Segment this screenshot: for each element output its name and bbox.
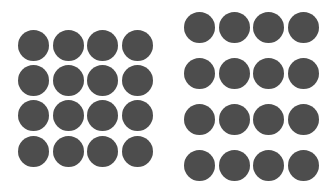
circle-dot bbox=[253, 150, 284, 181]
circle-dot bbox=[122, 30, 153, 61]
circle-dot bbox=[122, 136, 153, 167]
circle-dot bbox=[253, 58, 284, 89]
circle-dot bbox=[184, 104, 215, 135]
circle-dot bbox=[18, 136, 49, 167]
circle-dot bbox=[288, 58, 319, 89]
circle-dot bbox=[122, 65, 153, 96]
circle-dot bbox=[18, 30, 49, 61]
circle-dot bbox=[53, 65, 84, 96]
circle-dot bbox=[87, 65, 118, 96]
circle-dot bbox=[253, 12, 284, 43]
circle-dot bbox=[18, 65, 49, 96]
circle-dot bbox=[184, 12, 215, 43]
circle-dot bbox=[219, 150, 250, 181]
circle-dot bbox=[53, 30, 84, 61]
circle-dot bbox=[87, 136, 118, 167]
circle-dot bbox=[288, 12, 319, 43]
circle-dot bbox=[18, 100, 49, 131]
circle-dot bbox=[53, 100, 84, 131]
circle-dot bbox=[87, 30, 118, 61]
circle-dot bbox=[122, 100, 153, 131]
circle-dot bbox=[253, 104, 284, 135]
circle-dot bbox=[184, 58, 215, 89]
circle-dot bbox=[219, 104, 250, 135]
circle-dot bbox=[219, 58, 250, 89]
circle-dot bbox=[288, 150, 319, 181]
circle-dot bbox=[288, 104, 319, 135]
circle-dot bbox=[53, 136, 84, 167]
circle-dot bbox=[184, 150, 215, 181]
circle-dot bbox=[87, 100, 118, 131]
circle-dot bbox=[219, 12, 250, 43]
